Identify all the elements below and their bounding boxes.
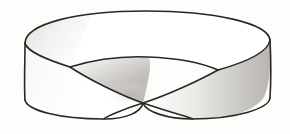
mobius-strip-drawing: [0, 0, 290, 134]
crossing-shadow: [105, 81, 157, 107]
figure-container: Line drawing of a Mobius band: a flat ri…: [0, 0, 290, 134]
right-edge-path: [270, 40, 271, 98]
